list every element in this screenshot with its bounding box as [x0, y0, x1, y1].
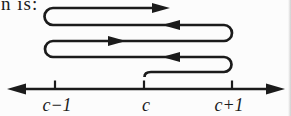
- tick-label-c-plus-1: c+1: [214, 95, 243, 115]
- path-terminal-right-arrowhead-icon: [152, 3, 170, 13]
- tick-label-c-minus-1: c−1: [42, 95, 71, 115]
- winding-path-diagram: c−1 c c+1: [0, 0, 291, 116]
- tick-label-c: c: [142, 95, 150, 115]
- number-line-left-arrowhead-icon: [7, 84, 26, 95]
- scanned-page-fragment: { "page": { "background_color": "#fcfcfc…: [0, 0, 291, 116]
- path-left-arrowhead-lower-icon: [162, 52, 180, 62]
- path-left-arrowhead-upper-icon: [162, 20, 180, 30]
- number-line-right-arrowhead-icon: [266, 84, 285, 95]
- winding-path-curve: [45, 8, 233, 77]
- path-right-arrowhead-middle-icon: [108, 36, 126, 46]
